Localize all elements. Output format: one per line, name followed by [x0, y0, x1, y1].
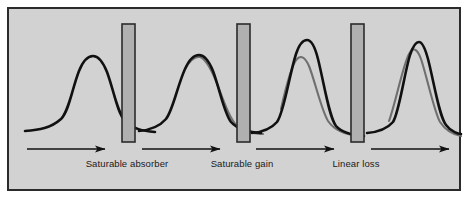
- pulse-curve-after-gain: [252, 40, 364, 136]
- label-linear-loss: Linear loss: [332, 158, 379, 169]
- pulse-curve-final: [367, 42, 461, 134]
- optical-element-saturable-gain: [237, 24, 250, 142]
- label-saturable-absorber: Saturable absorber: [86, 158, 169, 169]
- ghost-curve-pulse-4: [389, 50, 461, 136]
- pulse-shaping-diagram: Saturable absorber Saturable gain Linear…: [9, 9, 463, 193]
- optical-element-linear-loss: [351, 24, 364, 142]
- figure-root: Saturable absorber Saturable gain Linear…: [0, 0, 473, 203]
- ghost-curve-pulse-2: [185, 57, 263, 134]
- ghost-pulse-group: [185, 50, 461, 136]
- optical-element-saturable-absorber: [122, 24, 135, 142]
- diagram-panel: Saturable absorber Saturable gain Linear…: [7, 7, 461, 191]
- label-saturable-gain: Saturable gain: [211, 158, 274, 169]
- element-label-group: Saturable absorber Saturable gain Linear…: [86, 158, 380, 169]
